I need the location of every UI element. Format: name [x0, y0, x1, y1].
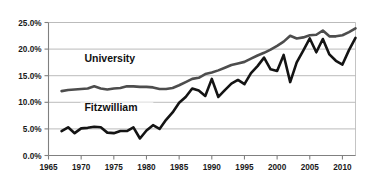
x-tick-label: 1975: [105, 163, 124, 172]
x-tick-label: 1990: [203, 163, 222, 172]
series-annotation-fitzwilliam: Fitzwilliam: [84, 101, 137, 113]
x-tick-label: 1965: [39, 163, 58, 172]
chart-figure: 0.0%5.0%10.0%15.0%20.0%25.0%196519701975…: [0, 0, 372, 188]
y-tick-label: 10.0%: [18, 98, 42, 107]
line-chart: 0.0%5.0%10.0%15.0%20.0%25.0%196519701975…: [0, 0, 372, 188]
y-tick-label: 0.0%: [23, 152, 42, 161]
x-tick-label: 1970: [72, 163, 91, 172]
x-tick-label: 2010: [333, 163, 352, 172]
series-annotation-university: University: [84, 52, 135, 64]
x-tick-label: 1980: [137, 163, 156, 172]
x-tick-label: 1985: [170, 163, 189, 172]
x-tick-label: 1995: [235, 163, 254, 172]
y-tick-label: 25.0%: [18, 19, 42, 28]
x-tick-label: 2000: [268, 163, 287, 172]
y-tick-label: 15.0%: [18, 72, 42, 81]
y-tick-label: 20.0%: [18, 45, 42, 54]
x-tick-label: 2005: [301, 163, 320, 172]
y-tick-label: 5.0%: [23, 125, 42, 134]
